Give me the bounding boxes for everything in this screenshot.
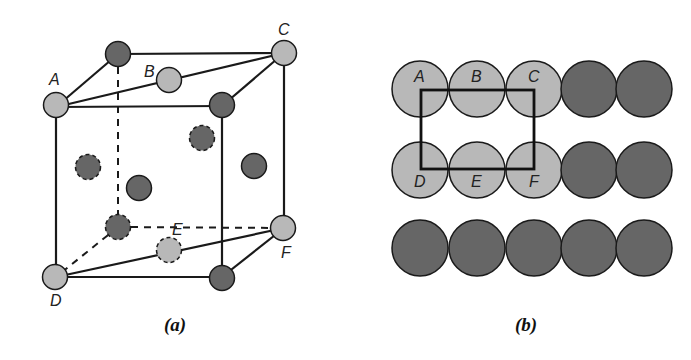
label-D: D xyxy=(414,173,426,190)
atom-dark xyxy=(392,220,448,276)
atom-E xyxy=(157,238,182,263)
atom-bottom-front-right xyxy=(210,266,235,291)
panel-a-unit-cell: A B C D E F (a) xyxy=(43,21,297,336)
atom-right-face xyxy=(242,154,267,179)
label-A: A xyxy=(413,68,425,85)
label-F: F xyxy=(281,244,292,261)
label-C: C xyxy=(528,68,540,85)
atom-F xyxy=(271,216,296,241)
atom-dark xyxy=(561,142,617,198)
atom-C xyxy=(272,41,297,66)
atom-back-bottom-left xyxy=(106,215,131,240)
atom-B xyxy=(157,68,182,93)
label-A: A xyxy=(48,71,60,88)
atom-left-face xyxy=(76,155,101,180)
atom-dark xyxy=(616,61,672,117)
label-B: B xyxy=(471,68,482,85)
atom-dark xyxy=(506,220,562,276)
atom-top-back-left xyxy=(106,42,131,67)
atom-dark xyxy=(616,142,672,198)
fcc-figure: A B C D E F (a) A B C D E F ( xyxy=(0,0,691,360)
label-E: E xyxy=(471,173,482,190)
atom-front-face xyxy=(127,176,152,201)
atom-dark xyxy=(561,220,617,276)
atom-A xyxy=(44,93,69,118)
panel-b-plane xyxy=(392,61,672,276)
atom-back-face xyxy=(190,126,215,151)
atom-dark xyxy=(616,220,672,276)
atom-dark xyxy=(561,61,617,117)
label-C: C xyxy=(278,21,290,38)
label-B: B xyxy=(144,63,155,80)
label-F: F xyxy=(529,173,540,190)
label-E: E xyxy=(172,221,183,238)
atom-top-front-right xyxy=(210,93,235,118)
atom-D xyxy=(43,265,68,290)
label-D: D xyxy=(50,292,62,309)
atom-dark xyxy=(449,220,505,276)
caption-a: (a) xyxy=(164,314,186,336)
caption-b: (b) xyxy=(515,314,537,336)
